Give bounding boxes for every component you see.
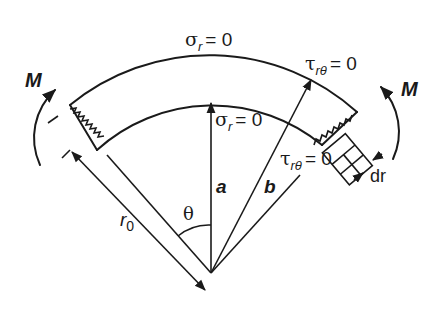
- moment-left-label: M: [25, 69, 43, 91]
- dr-arrow-lower: [354, 173, 363, 180]
- inner-sigma-label: σr= 0: [215, 108, 262, 134]
- theta-label: θ: [183, 203, 194, 224]
- radius-b-label: b: [264, 176, 276, 197]
- radius-a-label: a: [216, 176, 227, 197]
- dr-arrow-upper: [373, 154, 382, 160]
- moment-left-arrow: [34, 90, 55, 165]
- outer-sigma-label: σr= 0: [185, 28, 232, 54]
- curved-beam-diagram: σr= 0 τrθ= 0 σr= 0 τrθ= 0 M M a b r0 θ d…: [0, 0, 443, 313]
- inner-arc: [97, 106, 322, 150]
- r0-label: r0: [120, 209, 134, 234]
- outer-tau-label: τrθ= 0: [305, 52, 357, 78]
- r0-tick-outer: [48, 116, 58, 123]
- moment-right-arrow: [381, 87, 399, 159]
- dr-label: dr: [370, 166, 386, 186]
- right-stress-distribution: [314, 115, 352, 145]
- inner-tau-label: τrθ= 0: [280, 147, 332, 173]
- moment-right-label: M: [401, 78, 419, 100]
- r0-tick: [62, 150, 70, 158]
- theta-arc: [178, 225, 211, 236]
